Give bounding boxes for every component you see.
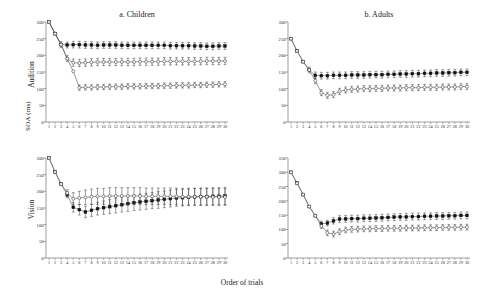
x-tick-label: 2 [296,260,298,265]
series-series-2-open [48,157,227,206]
x-tick-label: 8 [332,124,334,129]
x-tick-label: 16 [380,124,384,129]
x-tick-label: 12 [114,260,118,265]
x-tick-label: 30 [465,260,469,265]
series-series-2-open [290,171,469,237]
x-tick-label: 3 [302,260,304,265]
x-tick-label: 11 [108,124,112,129]
x-tick-label: 5 [72,260,74,265]
x-tick-label: 3 [60,260,62,265]
series-series-2-open [290,37,469,98]
x-tick-label: 20 [162,260,166,265]
x-tick-label: 22 [416,124,420,129]
x-tick-label: 9 [339,260,341,265]
x-tick-label: 24 [186,124,190,129]
row-label-audition: Audition [27,40,36,110]
x-tick-label: 20 [162,124,166,129]
x-tick-label: 15 [374,260,378,265]
x-tick-label: 25 [193,124,197,129]
x-tick-label: 22 [416,260,420,265]
plot-area: 0501001502002503001234567891011121314151… [46,158,228,258]
x-tick-label: 17 [144,124,148,129]
x-tick-label: 29 [459,260,463,265]
panel-children-audition: a. Children 0501001502002503001234567891… [46,22,228,122]
x-tick-label: 21 [410,260,414,265]
x-tick-label: 26 [199,124,203,129]
x-tick-label: 27 [447,124,451,129]
x-tick-label: 1 [48,260,50,265]
x-tick-label: 12 [356,124,360,129]
x-tick-label: 29 [217,260,221,265]
x-tick-label: 5 [314,260,316,265]
x-tick-label: 26 [441,124,445,129]
x-tick-label: 3 [60,124,62,129]
x-tick-label: 17 [386,124,390,129]
x-tick-label: 17 [144,260,148,265]
x-tick-label: 9 [97,124,99,129]
x-tick-label: 26 [199,260,203,265]
x-tick-label: 6 [320,260,322,265]
x-tick-label: 7 [326,124,328,129]
x-tick-label: 24 [186,260,190,265]
x-tick-label: 3 [302,124,304,129]
x-tick-label: 21 [168,260,172,265]
x-tick-label: 18 [392,260,396,265]
x-tick-label: 25 [435,260,439,265]
figure-root: SOA (ms) Audition Vision Order of trials… [0,0,484,291]
x-tick-label: 19 [156,260,160,265]
x-tick-label: 27 [205,260,209,265]
x-tick-label: 28 [211,260,215,265]
x-tick-label: 16 [380,260,384,265]
x-tick-label: 22 [174,260,178,265]
x-tick-label: 10 [344,260,348,265]
series-series-3-open-low [48,21,227,91]
x-tick-label: 18 [150,260,154,265]
x-tick-label: 1 [290,260,292,265]
x-tick-label: 11 [350,260,354,265]
x-tick-label: 19 [398,124,402,129]
x-tick-label: 4 [66,124,68,129]
plot-area: 0501001502002503001234567891011121314151… [46,22,228,122]
panel-adults-vision: 0501001502002503003501234567891011121314… [288,158,470,258]
x-tick-label: 13 [120,260,124,265]
x-tick-label: 16 [138,124,142,129]
x-tick-label: 8 [332,260,334,265]
x-tick-label: 7 [84,124,86,129]
x-tick-label: 23 [422,124,426,129]
x-tick-label: 9 [97,260,99,265]
x-tick-label: 19 [398,260,402,265]
x-tick-label: 8 [90,124,92,129]
x-tick-label: 12 [356,260,360,265]
x-tick-label: 25 [193,260,197,265]
x-tick-label: 10 [102,260,106,265]
chart-svg-0 [46,22,228,122]
x-tick-label: 26 [441,260,445,265]
series-series-1-filled [48,21,227,50]
chart-svg-1 [288,22,470,122]
x-tick-label: 29 [459,124,463,129]
x-tick-label: 15 [132,124,136,129]
x-tick-label: 6 [78,124,80,129]
x-tick-label: 17 [386,260,390,265]
x-tick-label: 11 [108,260,112,265]
x-tick-label: 14 [126,260,130,265]
x-tick-label: 8 [90,260,92,265]
x-tick-label: 1 [290,124,292,129]
x-tick-label: 19 [156,124,160,129]
x-tick-label: 4 [308,124,310,129]
x-tick-label: 2 [296,124,298,129]
series-series-1-filled [48,157,227,218]
x-tick-label: 2 [54,260,56,265]
x-tick-label: 11 [350,124,354,129]
x-tick-label: 21 [410,124,414,129]
x-tick-label: 10 [344,124,348,129]
x-tick-label: 7 [84,260,86,265]
chart-svg-3 [288,158,470,258]
x-tick-label: 14 [368,260,372,265]
x-tick-label: 28 [453,124,457,129]
x-tick-label: 23 [180,260,184,265]
x-axis-title: Order of trials [0,278,484,287]
x-tick-label: 7 [326,260,328,265]
x-tick-label: 25 [435,124,439,129]
x-tick-label: 13 [120,124,124,129]
